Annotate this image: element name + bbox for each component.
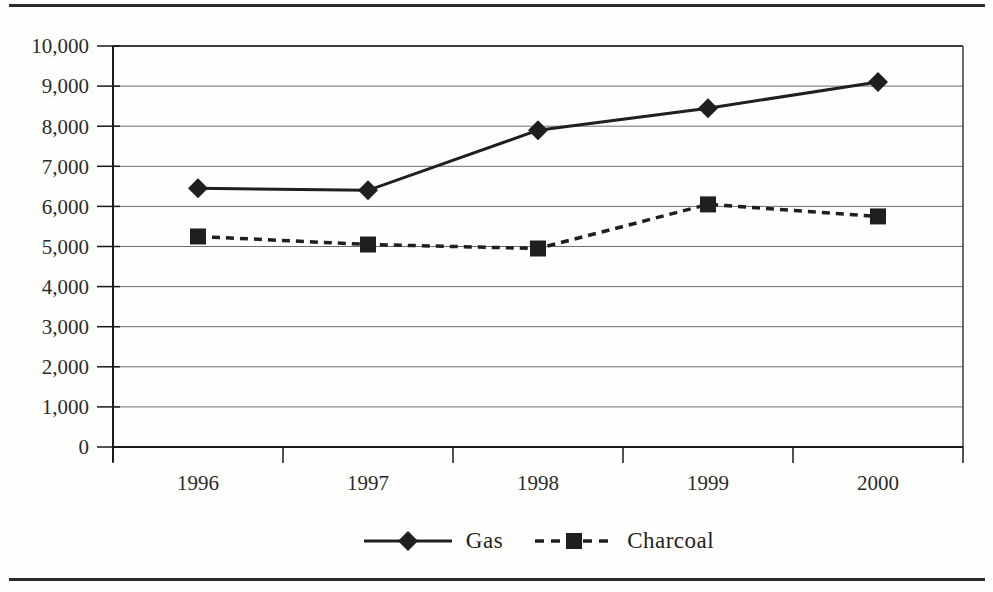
series-marker-gas-1999: [698, 98, 718, 118]
series-marker-gas-1998: [528, 120, 548, 140]
y-tick-label: 10,000: [31, 34, 89, 58]
legend-item-charcoal: Charcoal: [533, 528, 714, 554]
chart-legend: Gas Charcoal: [113, 522, 963, 560]
series-marker-charcoal-2000: [870, 208, 886, 224]
legend-label-gas: Gas: [466, 528, 503, 554]
y-tick-label: 1,000: [42, 395, 89, 419]
y-tick-label: 0: [79, 435, 90, 459]
scanned-page: 01,0002,0003,0004,0005,0006,0007,0008,00…: [0, 0, 993, 592]
y-tick-label: 9,000: [42, 74, 89, 98]
y-tick-label: 7,000: [42, 155, 89, 179]
x-tick-label: 1998: [517, 471, 559, 495]
series-marker-charcoal-1998: [530, 241, 546, 257]
y-tick-label: 5,000: [42, 235, 89, 259]
series-marker-gas-1997: [358, 180, 378, 200]
series-marker-gas-2000: [868, 72, 888, 92]
line-chart: 01,0002,0003,0004,0005,0006,0007,0008,00…: [0, 0, 993, 510]
series-marker-gas-1996: [188, 178, 208, 198]
y-tick-label: 8,000: [42, 115, 89, 139]
x-tick-label: 2000: [857, 471, 899, 495]
series-marker-charcoal-1999: [700, 196, 716, 212]
x-tick-label: 1996: [177, 471, 219, 495]
x-tick-label: 1999: [687, 471, 729, 495]
y-tick-label: 2,000: [42, 355, 89, 379]
series-marker-charcoal-1997: [360, 236, 376, 252]
legend-item-gas: Gas: [362, 528, 503, 554]
y-tick-label: 4,000: [42, 275, 89, 299]
gas-legend-key-icon: [362, 529, 454, 553]
y-tick-label: 3,000: [42, 315, 89, 339]
bottom-horizontal-rule: [9, 578, 985, 581]
series-marker-charcoal-1996: [190, 228, 206, 244]
x-tick-label: 1997: [347, 471, 389, 495]
legend-label-charcoal: Charcoal: [627, 528, 714, 554]
charcoal-legend-key-icon: [533, 529, 615, 553]
y-tick-label: 6,000: [42, 195, 89, 219]
